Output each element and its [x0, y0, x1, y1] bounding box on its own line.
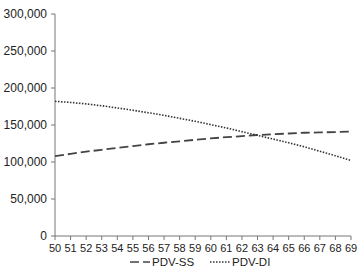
x-tick-label: 63 [251, 242, 263, 254]
x-tick-label: 57 [158, 242, 170, 254]
series-group [55, 101, 351, 160]
x-tick-label: 60 [205, 242, 217, 254]
y-tick-label: 200,000 [4, 81, 48, 95]
x-tick-label: 66 [298, 242, 310, 254]
y-tick-label: 300,000 [4, 7, 48, 21]
y-tick-label: 150,000 [4, 118, 48, 132]
legend-label: PDV-SS [152, 256, 195, 268]
x-axis: 5051525354555657585960616263646566676869 [49, 236, 357, 254]
y-axis: 050,000100,000150,000200,000250,000300,0… [4, 7, 55, 243]
x-tick-label: 51 [64, 242, 76, 254]
x-tick-label: 59 [189, 242, 201, 254]
y-tick-label: 250,000 [4, 44, 48, 58]
chart-canvas: 050,000100,000150,000200,000250,000300,0… [0, 0, 364, 280]
x-tick-label: 64 [267, 242, 279, 254]
legend: PDV-SSPDV-DI [130, 256, 270, 268]
y-tick-label: 100,000 [4, 155, 48, 169]
x-tick-label: 69 [345, 242, 357, 254]
x-tick-label: 58 [174, 242, 186, 254]
x-tick-label: 68 [329, 242, 341, 254]
series-line-pdv-di [55, 101, 351, 160]
x-tick-label: 61 [220, 242, 232, 254]
x-tick-label: 67 [314, 242, 326, 254]
series-line-pdv-ss [55, 132, 351, 156]
x-tick-label: 53 [96, 242, 108, 254]
x-tick-label: 62 [236, 242, 248, 254]
line-chart: 050,000100,000150,000200,000250,000300,0… [0, 0, 364, 280]
x-tick-label: 55 [127, 242, 139, 254]
x-tick-label: 50 [49, 242, 61, 254]
legend-label: PDV-DI [232, 256, 270, 268]
x-tick-label: 54 [111, 242, 123, 254]
y-tick-label: 50,000 [10, 192, 47, 206]
x-tick-label: 56 [142, 242, 154, 254]
x-tick-label: 52 [80, 242, 92, 254]
x-tick-label: 65 [283, 242, 295, 254]
y-tick-label: 0 [40, 229, 47, 243]
